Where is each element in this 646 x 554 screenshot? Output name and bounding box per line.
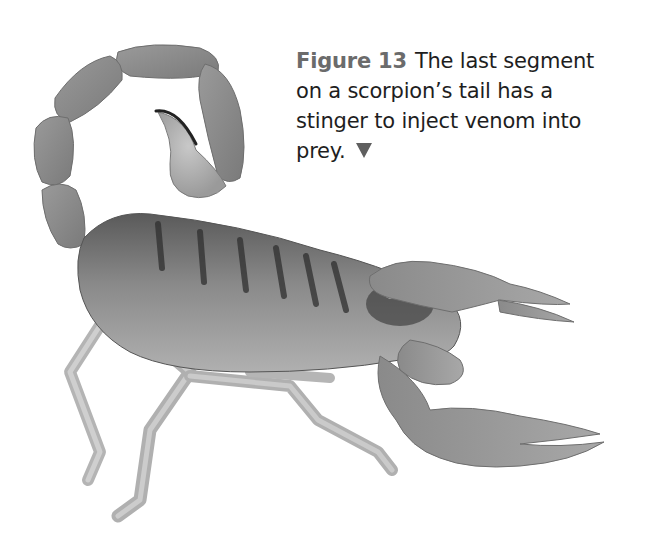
caption-line-4: prey. xyxy=(296,136,636,166)
caption-line-1: Figure 13The last segment xyxy=(296,46,636,76)
caption-line-3: stinger to inject venom into xyxy=(296,106,636,136)
caption-line-2: on a scorpion’s tail has a xyxy=(296,76,636,106)
lower-pincer xyxy=(378,340,604,467)
figure: Figure 13The last segment on a scorpion’… xyxy=(0,0,646,554)
down-triangle-icon xyxy=(356,143,372,158)
figure-caption: Figure 13The last segment on a scorpion’… xyxy=(296,46,636,166)
figure-label: Figure 13 xyxy=(296,49,407,73)
